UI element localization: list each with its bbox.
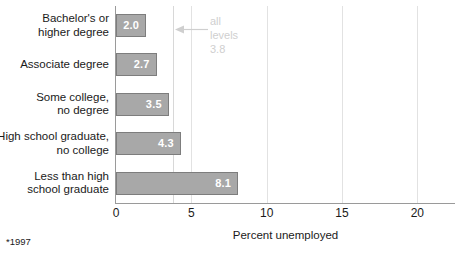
bar[interactable]: 2.0: [116, 14, 146, 37]
chart-footnote: *1997: [6, 236, 31, 247]
category-label-line: no degree: [0, 104, 109, 118]
plot-area: 2.02.73.54.38.1: [116, 6, 455, 203]
bar-row: 4.3: [116, 124, 455, 163]
bar[interactable]: 4.3: [116, 132, 181, 155]
category-label-line: High school graduate,: [0, 130, 109, 144]
category-label-line: Bachelor's or: [0, 12, 109, 26]
category-label-line: no college: [0, 144, 109, 158]
bar-row: 3.5: [116, 85, 455, 124]
x-tick-label: 0: [96, 206, 136, 220]
bar[interactable]: 2.7: [116, 53, 157, 76]
category-label: High school graduate,no college: [0, 130, 109, 157]
bar-row: 2.0: [116, 6, 455, 45]
category-label: Less than highschool graduate: [0, 170, 109, 197]
category-label-line: higher degree: [0, 26, 109, 40]
category-label: Bachelor's orhigher degree: [0, 12, 109, 39]
x-tick-label: 10: [247, 206, 287, 220]
category-label-line: Some college,: [0, 91, 109, 105]
bar[interactable]: 8.1: [116, 172, 238, 195]
x-axis-title: Percent unemployed: [116, 229, 455, 241]
x-tick-label: 5: [171, 206, 211, 220]
bar-value-label: 8.1: [215, 178, 237, 189]
category-label: Some college,no degree: [0, 91, 109, 118]
category-label-line: Associate degree: [0, 58, 109, 72]
x-tick-label: 15: [322, 206, 362, 220]
bar-value-label: 2.0: [123, 20, 145, 31]
bar[interactable]: 3.5: [116, 93, 169, 116]
x-axis-line: [116, 203, 455, 204]
bar-row: 2.7: [116, 45, 455, 84]
bar-value-label: 3.5: [146, 99, 168, 110]
category-label-line: school graduate: [0, 183, 109, 197]
bar-value-label: 4.3: [158, 138, 180, 149]
category-label-line: Less than high: [0, 170, 109, 184]
category-label: Associate degree: [0, 58, 109, 72]
x-tick-label: 20: [397, 206, 437, 220]
bar-chart: all levels 3.8 2.02.73.54.38.1 Bachelor'…: [0, 0, 469, 255]
bar-value-label: 2.7: [134, 59, 156, 70]
bar-row: 8.1: [116, 164, 455, 203]
